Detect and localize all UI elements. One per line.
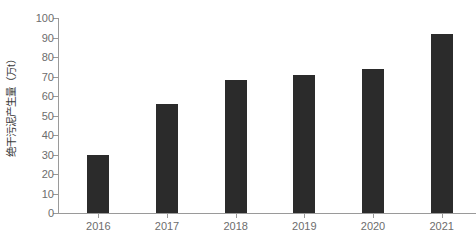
bar xyxy=(156,104,178,213)
y-axis-title: 绝干污泥产生量（万t） xyxy=(0,0,20,210)
y-tick-label: 10 xyxy=(42,188,54,200)
y-axis-line xyxy=(58,18,59,214)
x-tick-mark xyxy=(442,214,443,218)
y-tick-label: 70 xyxy=(42,71,54,83)
bar-chart: 绝干污泥产生量（万t） 0102030405060708090100 20162… xyxy=(0,0,476,247)
bar xyxy=(431,34,453,213)
plot-area: 0102030405060708090100 20162017201820192… xyxy=(58,18,470,214)
y-tick-label: 100 xyxy=(36,12,54,24)
x-tick-mark xyxy=(98,214,99,218)
bar xyxy=(362,69,384,213)
y-tick-label: 60 xyxy=(42,90,54,102)
x-axis-line xyxy=(58,213,476,214)
y-tick-label: 50 xyxy=(42,110,54,122)
y-tick-label: 40 xyxy=(42,129,54,141)
y-tick-label: 90 xyxy=(42,32,54,44)
x-tick-label: 2016 xyxy=(86,220,110,232)
bar xyxy=(225,80,247,213)
bar xyxy=(293,75,315,213)
x-tick-label: 2017 xyxy=(155,220,179,232)
y-tick-label: 80 xyxy=(42,51,54,63)
y-tick-label: 30 xyxy=(42,149,54,161)
x-tick-mark xyxy=(304,214,305,218)
bar xyxy=(87,155,109,214)
x-tick-mark xyxy=(236,214,237,218)
x-tick-label: 2019 xyxy=(292,220,316,232)
y-tick-label: 20 xyxy=(42,168,54,180)
y-axis-title-label: 绝干污泥产生量（万t） xyxy=(3,54,18,157)
x-tick-label: 2018 xyxy=(223,220,247,232)
x-tick-label: 2021 xyxy=(429,220,453,232)
x-tick-mark xyxy=(167,214,168,218)
x-tick-mark xyxy=(373,214,374,218)
y-tick-label: 0 xyxy=(48,207,54,219)
x-tick-label: 2020 xyxy=(361,220,385,232)
